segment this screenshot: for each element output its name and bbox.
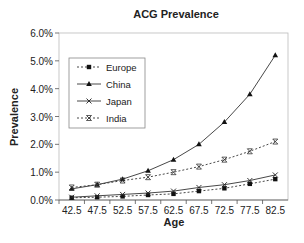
line-chart: ACG Prevalence 0.0%1.0%2.0%3.0%4.0%5.0%6…	[0, 0, 304, 243]
x-tick-label: 47.5	[87, 205, 107, 216]
y-tick-label: 3.0%	[30, 112, 53, 123]
series-europe	[70, 177, 278, 200]
x-tick-label: 82.5	[266, 205, 286, 216]
x-tick-label: 72.5	[215, 205, 235, 216]
y-axis: 0.0%1.0%2.0%3.0%4.0%5.0%6.0%	[30, 28, 59, 206]
svg-text:China: China	[106, 79, 132, 90]
y-tick-label: 2.0%	[30, 139, 53, 150]
x-axis-label: Age	[164, 216, 185, 228]
legend: EuropeChinaJapanIndia	[69, 58, 145, 128]
x-axis: 42.547.552.557.562.567.572.577.582.5	[59, 200, 288, 216]
x-tick-label: 52.5	[113, 205, 133, 216]
svg-text:Japan: Japan	[106, 96, 132, 107]
y-tick-label: 6.0%	[30, 28, 53, 39]
y-axis-label: Prevalence	[8, 88, 20, 146]
series-india	[69, 139, 278, 190]
y-tick-label: 5.0%	[30, 56, 53, 67]
y-tick-label: 0.0%	[30, 195, 53, 206]
svg-text:Europe: Europe	[106, 62, 137, 73]
x-tick-label: 77.5	[240, 205, 260, 216]
chart-title: ACG Prevalence	[133, 8, 219, 20]
x-tick-label: 42.5	[62, 205, 82, 216]
x-tick-label: 57.5	[138, 205, 158, 216]
y-tick-label: 4.0%	[30, 84, 53, 95]
x-tick-label: 67.5	[189, 205, 209, 216]
svg-text:India: India	[106, 113, 127, 124]
y-tick-label: 1.0%	[30, 167, 53, 178]
x-tick-label: 62.5	[164, 205, 184, 216]
